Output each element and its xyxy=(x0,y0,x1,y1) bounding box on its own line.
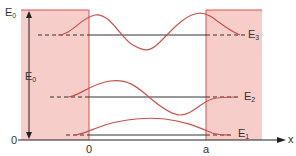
label-e3: E3 xyxy=(248,29,259,41)
potential-well-diagram xyxy=(0,0,296,156)
label-zero-energy: 0 xyxy=(11,135,17,146)
label-e0-top: E0 xyxy=(5,7,16,19)
label-x-zero: 0 xyxy=(86,144,92,155)
label-e2: E2 xyxy=(244,91,255,103)
label-x-axis: x xyxy=(288,134,294,145)
label-e1: E1 xyxy=(238,128,249,140)
label-x-a: a xyxy=(203,144,209,155)
label-e0-mid: E0 xyxy=(25,71,36,83)
